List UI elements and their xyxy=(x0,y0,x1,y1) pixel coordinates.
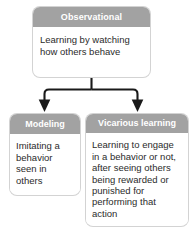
node-observational[interactable]: Observational Learning by watching how o… xyxy=(33,7,150,77)
diagram-canvas: Observational Learning by watching how o… xyxy=(0,0,196,237)
node-vicarious-body: Learning to engage in a behavior or not,… xyxy=(86,133,188,224)
node-vicarious-header: Vicarious learning xyxy=(86,114,188,133)
arrowhead-vicarious-icon xyxy=(132,100,144,113)
node-observational-body: Learning by watching how others behave xyxy=(33,27,150,63)
connector-observational-to-vicarious xyxy=(92,90,138,101)
arrowhead-modeling-icon xyxy=(39,100,51,113)
node-modeling-body: Imitating a behavior seen in others xyxy=(10,134,80,191)
connector-observational-to-modeling xyxy=(45,90,92,101)
node-vicarious[interactable]: Vicarious learning Learning to engage in… xyxy=(86,114,188,226)
node-modeling[interactable]: Modeling Imitating a behavior seen in ot… xyxy=(10,114,80,195)
node-observational-header: Observational xyxy=(33,7,150,27)
node-modeling-header: Modeling xyxy=(10,114,80,134)
